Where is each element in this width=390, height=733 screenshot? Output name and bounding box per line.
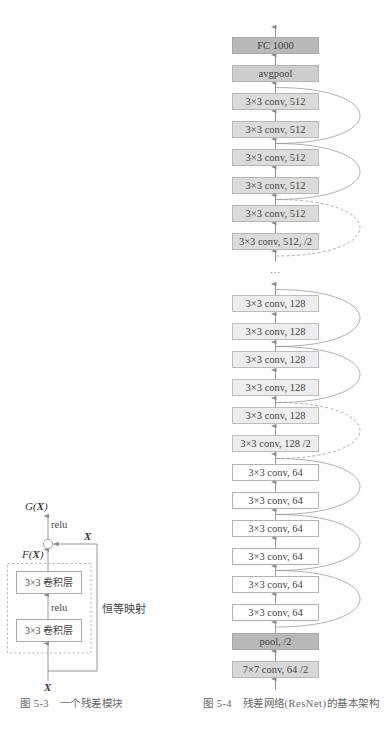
skip-input-label: X	[84, 530, 91, 542]
layer-conv-64: 3×3 conv, 64	[232, 492, 319, 509]
layer-conv-64: 3×3 conv, 64	[232, 520, 319, 537]
paren-close: )	[44, 500, 48, 512]
layer-conv-128: 3×3 conv, 128	[232, 407, 319, 424]
layer-conv-128-stride2: 3×3 conv, 128 /2	[232, 435, 319, 452]
figure-5-4-caption: 图 5-4 残差网络(ResNet)的基本架构	[203, 695, 379, 710]
layer-conv-64: 3×3 conv, 64	[232, 576, 319, 593]
layer-conv-512-stride2: 3×3 conv, 512, /2	[232, 233, 319, 250]
identity-mapping-label: 恒等映射	[102, 600, 146, 616]
output-function-symbol: G	[25, 500, 33, 512]
figure-5-3-caption: 图 5-3 一个残差模块	[20, 695, 123, 710]
layer-conv-512: 3×3 conv, 512	[232, 177, 319, 194]
block-input-label: X	[44, 681, 51, 693]
output-variable: X	[37, 500, 44, 512]
layer-conv-7x7: 7×7 conv, 64 /2	[232, 661, 319, 678]
output-label: G(X)	[25, 500, 48, 512]
figure-canvas: FC 1000 avgpool 3×3 conv, 512 3×3 conv, …	[0, 0, 390, 733]
layer-conv-64: 3×3 conv, 64	[232, 464, 319, 481]
layer-conv-128: 3×3 conv, 128	[232, 351, 319, 368]
layer-avgpool: avgpool	[232, 65, 319, 82]
paren-close: )	[40, 548, 44, 560]
layer-conv-128: 3×3 conv, 128	[232, 323, 319, 340]
add-node-icon	[43, 539, 52, 548]
layer-conv-512: 3×3 conv, 512	[232, 149, 319, 166]
layer-fc-1000: FC 1000	[232, 37, 319, 54]
relu-output-label: relu	[51, 519, 67, 530]
layer-conv-128: 3×3 conv, 128	[232, 379, 319, 396]
layer-conv-128: 3×3 conv, 128	[232, 295, 319, 312]
layer-conv-512: 3×3 conv, 512	[232, 93, 319, 110]
residual-variable: X	[32, 548, 39, 560]
layer-conv-64: 3×3 conv, 64	[232, 604, 319, 621]
layer-conv-512: 3×3 conv, 512	[232, 121, 319, 138]
residual-function-symbol: F	[22, 548, 29, 560]
layer-pool: pool, /2	[232, 633, 319, 650]
layer-conv-512: 3×3 conv, 512	[232, 205, 319, 222]
conv-layer-upper: 3×3 卷积层	[16, 571, 82, 594]
layer-conv-64: 3×3 conv, 64	[232, 548, 319, 565]
relu-middle-label: relu	[51, 602, 67, 613]
residual-function-label: F(X)	[22, 548, 43, 560]
omitted-layers-ellipsis: ...	[232, 264, 319, 275]
conv-layer-lower: 3×3 卷积层	[16, 619, 82, 642]
